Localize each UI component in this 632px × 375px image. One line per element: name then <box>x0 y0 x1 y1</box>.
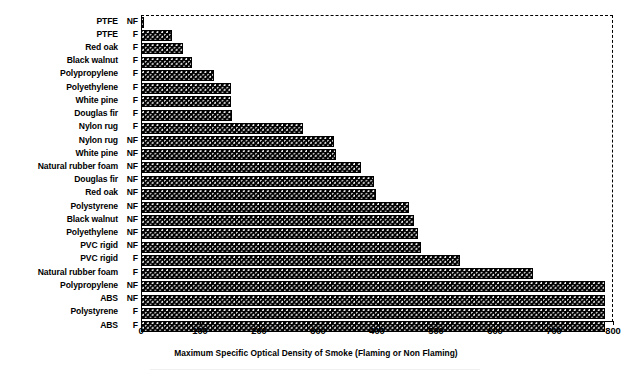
category-label-mode: F <box>121 320 138 330</box>
x-axis-tick-label: 300 <box>310 326 326 336</box>
bar <box>141 202 409 213</box>
category-label-row: Red oakF <box>0 40 138 53</box>
category-label-row: PolystyreneF <box>0 305 138 318</box>
category-label-name: Polystyrene <box>70 201 118 211</box>
category-label-mode: NF <box>121 135 138 145</box>
category-label-name: White pine <box>76 95 118 105</box>
category-label-mode: NF <box>121 240 138 250</box>
category-label-row: PolystyreneNF <box>0 199 138 212</box>
category-label-name: ABS <box>100 320 118 330</box>
category-label-name: Polypropylene <box>60 280 118 290</box>
category-label-mode: NF <box>121 161 138 171</box>
category-label-row: Douglas firF <box>0 107 138 120</box>
x-axis-tick-label: 0 <box>138 326 143 336</box>
category-label-mode: NF <box>121 280 138 290</box>
x-axis-tick-label: 800 <box>605 326 621 336</box>
x-axis-tick <box>200 321 201 325</box>
category-label-row: White pineF <box>0 93 138 106</box>
bar <box>141 255 460 266</box>
x-axis-tick-label: 400 <box>369 326 385 336</box>
bar <box>141 30 172 41</box>
bar <box>141 123 303 134</box>
bar <box>141 228 418 239</box>
category-label-name: Douglas fir <box>74 174 118 184</box>
x-axis-tick-label: 200 <box>251 326 267 336</box>
category-label-name: Nylon rug <box>79 121 118 131</box>
x-axis-tick <box>613 321 614 325</box>
bar <box>141 110 232 121</box>
x-axis-tick-label: 700 <box>546 326 562 336</box>
category-label-mode: F <box>121 267 138 277</box>
category-label-name: Nylon rug <box>79 135 118 145</box>
category-label-row: White pineNF <box>0 146 138 159</box>
bar <box>141 57 192 68</box>
category-label-row: Black walnutF <box>0 54 138 67</box>
bar <box>141 242 421 253</box>
x-axis-tick <box>318 321 319 325</box>
category-label-row: PolypropyleneNF <box>0 278 138 291</box>
x-axis-tick-label: 100 <box>192 326 208 336</box>
category-label-name: Douglas fir <box>74 108 118 118</box>
category-label-mode: NF <box>121 227 138 237</box>
category-label-row: Douglas firNF <box>0 173 138 186</box>
category-label-row: Natural rubber foamF <box>0 265 138 278</box>
category-label-mode: NF <box>121 148 138 158</box>
category-label-row: PTFENF <box>0 14 138 27</box>
category-label-row: ABSNF <box>0 292 138 305</box>
category-label-row: Red oakNF <box>0 186 138 199</box>
category-label-row: Nylon rugNF <box>0 133 138 146</box>
category-label-name: ABS <box>100 293 118 303</box>
bar <box>141 268 533 279</box>
bar <box>141 43 183 54</box>
category-label-name: Red oak <box>85 187 118 197</box>
category-label-mode: NF <box>121 293 138 303</box>
category-label-row: ABSF <box>0 318 138 331</box>
category-label-row: Black walnutNF <box>0 212 138 225</box>
category-label-row: PolyethyleneNF <box>0 225 138 238</box>
category-label-row: Natural rubber foamNF <box>0 159 138 172</box>
chart-figure: PTFENFPTFEFRed oakFBlack walnutFPolyprop… <box>0 0 632 375</box>
y-axis-category-labels: PTFENFPTFEFRed oakFBlack walnutFPolyprop… <box>0 14 138 322</box>
bar <box>141 136 334 147</box>
bar-series <box>141 16 613 321</box>
category-label-name: PTFE <box>96 16 118 26</box>
category-label-name: Black walnut <box>67 55 118 65</box>
category-label-mode: F <box>121 306 138 316</box>
category-label-mode: NF <box>121 187 138 197</box>
x-axis-tick <box>495 321 496 325</box>
bar <box>141 281 605 292</box>
category-label-mode: F <box>121 42 138 52</box>
category-label-row: PVC rigidNF <box>0 239 138 252</box>
category-label-name: Polypropylene <box>60 68 118 78</box>
category-label-row: Nylon rugF <box>0 120 138 133</box>
x-axis-tick <box>259 321 260 325</box>
x-axis-tick-label: 500 <box>428 326 444 336</box>
category-label-mode: F <box>121 55 138 65</box>
category-label-name: Polystyrene <box>70 306 118 316</box>
bar <box>141 162 361 173</box>
category-label-name: Polyethylene <box>66 227 118 237</box>
bar <box>141 96 231 107</box>
x-axis-tick <box>141 321 142 325</box>
category-label-mode: F <box>121 95 138 105</box>
category-label-row: PolyethyleneF <box>0 80 138 93</box>
category-label-row: PTFEF <box>0 27 138 40</box>
category-label-mode: F <box>121 29 138 39</box>
category-label-name: PVC rigid <box>80 253 118 263</box>
category-label-name: PVC rigid <box>80 240 118 250</box>
category-label-mode: F <box>121 121 138 131</box>
x-axis-tick <box>436 321 437 325</box>
category-label-mode: NF <box>121 174 138 184</box>
bar <box>141 295 605 306</box>
page-artifact-line <box>150 369 480 370</box>
x-axis-tick <box>554 321 555 325</box>
x-axis-tick <box>377 321 378 325</box>
category-label-mode: F <box>121 68 138 78</box>
category-label-mode: NF <box>121 214 138 224</box>
category-label-mode: F <box>121 253 138 263</box>
category-label-name: Red oak <box>85 42 118 52</box>
bar <box>141 189 376 200</box>
bar <box>141 176 374 187</box>
category-label-name: Natural rubber foam <box>38 267 118 277</box>
x-axis-tick-label: 600 <box>487 326 503 336</box>
